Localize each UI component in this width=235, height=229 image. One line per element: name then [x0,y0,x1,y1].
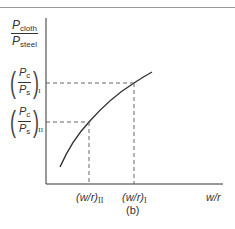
y-label-den: P [12,34,20,48]
x-axis-label: w/r [206,191,221,203]
y-label-num-sub: cloth [20,24,37,33]
y-tick-II-num-sub: c [26,110,30,119]
x-tick-II-roman: II [98,196,103,205]
y-tick-I: ( Pc Ps ) I [8,66,41,99]
y-label-den-sub: steel [20,40,37,49]
x-tick-I-label: (w/r) [122,191,144,203]
x-tick-I-roman: I [144,196,147,205]
y-tick-I-den-sub: s [26,88,30,97]
x-tick-I: (w/r)I [122,191,147,205]
y-tick-II: ( Pc Ps ) II [8,105,43,138]
y-tick-II-den-sub: s [26,127,30,136]
curve [60,72,152,167]
y-axis-label: Pcloth Psteel [11,18,38,49]
y-label-num: P [12,18,20,32]
y-tick-I-num-sub: c [26,71,30,80]
x-tick-II-label: (w/r) [76,191,98,203]
y-tick-II-roman: II [38,126,43,134]
figure-caption: (b) [126,204,139,216]
x-tick-II: (w/r)II [76,191,103,205]
